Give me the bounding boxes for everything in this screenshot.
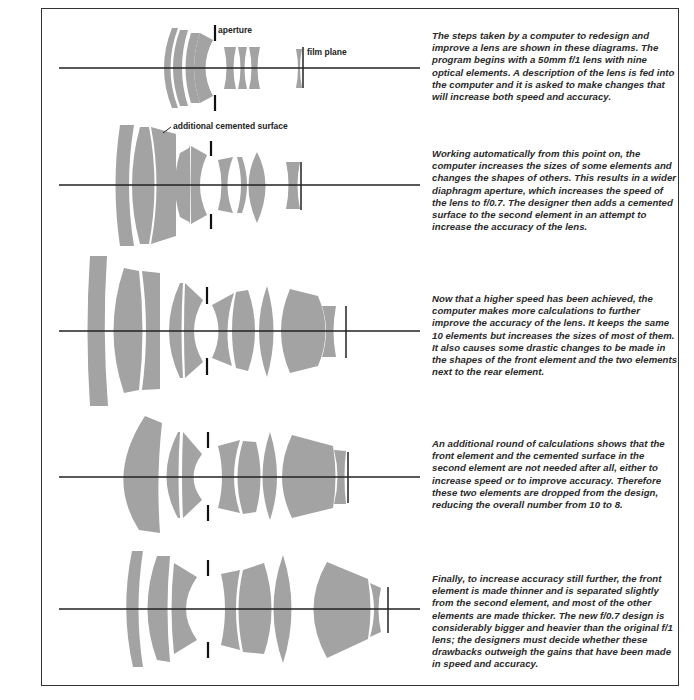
caption-step-5: Finally, to increase accuracy still furt… — [432, 573, 680, 671]
caption-step-1: The steps taken by a computer to redesig… — [432, 30, 680, 103]
caption-step-2: Working automatically from this point on… — [432, 148, 680, 233]
lens-diagram-step-2 — [59, 125, 420, 246]
lens-diagram-step-1 — [59, 25, 420, 111]
lens-diagram-step-5 — [59, 551, 420, 667]
cemented-surface-label: additional cemented surface — [173, 121, 288, 131]
caption-step-3: Now that a higher speed has been achieve… — [432, 293, 680, 378]
lens-diagram-step-4 — [59, 416, 420, 533]
lens-diagram-step-3 — [59, 256, 420, 406]
aperture-label: aperture — [218, 25, 252, 35]
film-plane-label: film plane — [307, 47, 347, 57]
caption-step-4: An additional round of calculations show… — [432, 438, 680, 511]
